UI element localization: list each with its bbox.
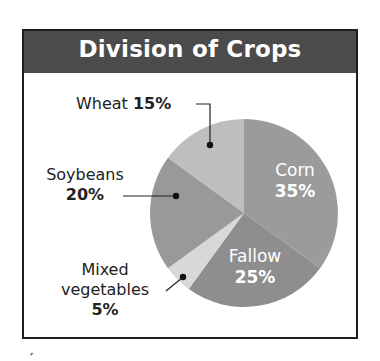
label-mixed-pct: 5% [48, 300, 162, 320]
label-mixed-name-line1: Mixed [48, 260, 162, 280]
label-wheat-pct: 15% [133, 94, 171, 113]
label-corn-pct: 35% [250, 181, 340, 202]
label-fallow-name: Fallow [210, 246, 300, 267]
label-wheat: Wheat 15% [76, 94, 171, 114]
label-mixed-name-line2: vegetables [48, 280, 162, 300]
label-soybeans-pct: 20% [36, 185, 134, 205]
label-soybeans-name: Soybeans [36, 165, 134, 185]
label-corn-name: Corn [250, 160, 340, 181]
label-mixed-vegetables: Mixed vegetables 5% [48, 260, 162, 320]
label-soybeans: Soybeans 20% [36, 165, 134, 205]
label-fallow-pct: 25% [210, 267, 300, 288]
label-corn: Corn 35% [250, 160, 340, 202]
label-fallow: Fallow 25% [210, 246, 300, 288]
label-wheat-name: Wheat [76, 94, 128, 113]
